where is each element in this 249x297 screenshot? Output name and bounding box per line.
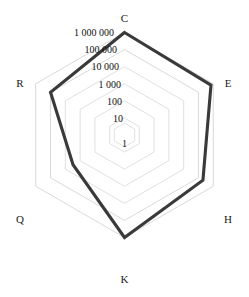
tick-labels: 1 000 000 100 000 10 000 1 000 100 10 1 <box>74 27 127 149</box>
tick-label-10000: 10 000 <box>92 61 120 72</box>
tick-label-1: 1 <box>122 138 127 149</box>
tick-label-1000: 1 000 <box>99 79 122 90</box>
axis-label-H: H <box>224 213 232 225</box>
grid-ring-10000 <box>65 67 183 204</box>
series-1-polygon <box>51 33 211 238</box>
tick-label-100: 100 <box>107 96 122 107</box>
grid-ring-1000 <box>80 84 169 187</box>
axis-label-K: K <box>121 273 129 285</box>
radar-chart: 1 000 000 100 000 10 000 1 000 100 10 1 … <box>0 0 249 297</box>
tick-label-100000: 100 000 <box>85 44 118 55</box>
grid-ring-100 <box>95 101 154 169</box>
radar-chart-canvas: 1 000 000 100 000 10 000 1 000 100 10 1 … <box>0 0 249 297</box>
axis-label-E: E <box>225 77 232 89</box>
axis-label-C: C <box>121 12 128 24</box>
tick-label-10: 10 <box>113 113 123 124</box>
tick-label-1000000: 1 000 000 <box>74 27 114 38</box>
axis-label-R: R <box>16 77 24 89</box>
series-layer <box>51 33 211 238</box>
axis-label-Q: Q <box>16 213 24 225</box>
